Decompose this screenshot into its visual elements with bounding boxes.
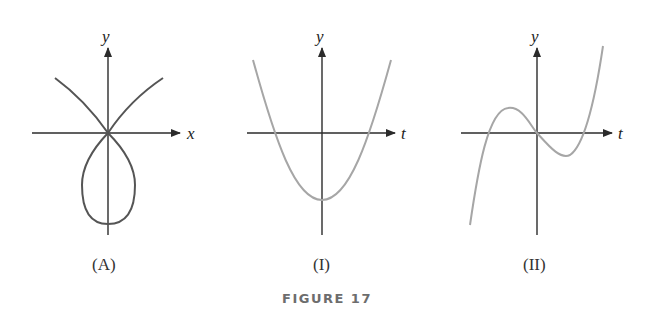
y-axis-label: y <box>529 27 539 46</box>
loop-curve <box>55 78 163 224</box>
figure-17: x y (A) t y (I) t y (II) FIGURE 17 <box>0 0 650 311</box>
t-axis-label: t <box>401 124 407 143</box>
panel-ii: t y (II) <box>461 27 624 274</box>
panel-label: (A) <box>92 255 116 274</box>
t-axis-label: t <box>618 124 624 143</box>
panel-a: x y (A) <box>32 27 195 274</box>
x-axis-label: x <box>186 124 195 143</box>
y-axis-label: y <box>100 27 110 46</box>
figure-caption: FIGURE 17 <box>282 291 372 306</box>
y-axis-label: y <box>314 27 324 46</box>
panel-i: t y (I) <box>247 27 407 274</box>
panel-label: (II) <box>523 255 546 274</box>
panel-label: (I) <box>313 255 330 274</box>
